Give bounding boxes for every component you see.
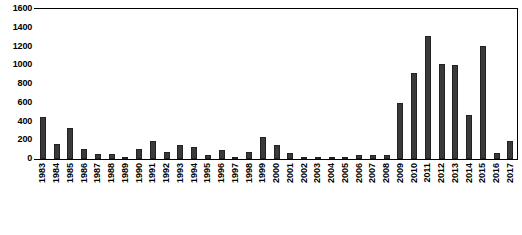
bar-slot — [490, 9, 504, 159]
bar[interactable] — [136, 149, 142, 159]
bar-slot — [105, 9, 119, 159]
x-tick-label: 2001 — [286, 163, 295, 183]
bar[interactable] — [301, 157, 307, 159]
bar[interactable] — [425, 36, 431, 159]
x-tick-label: 1983 — [38, 163, 47, 183]
bar[interactable] — [507, 141, 513, 159]
bar[interactable] — [109, 154, 115, 159]
x-tick-slot: 2010 — [407, 163, 421, 233]
bar[interactable] — [205, 155, 211, 159]
bar-slot — [462, 9, 476, 159]
x-tick-label: 2003 — [313, 163, 322, 183]
x-tick-label: 2007 — [368, 163, 377, 183]
bar[interactable] — [232, 157, 238, 159]
x-tick-slot: 2000 — [270, 163, 284, 233]
x-tick-label: 2008 — [382, 163, 391, 183]
x-tick-slot: 1994 — [187, 163, 201, 233]
x-tick-label: 1991 — [148, 163, 157, 183]
x-tick-label: 1997 — [231, 163, 240, 183]
x-tick-label: 1998 — [245, 163, 254, 183]
y-tick-label: 1400 — [0, 23, 32, 32]
x-tick-label: 2000 — [272, 163, 281, 183]
x-tick-label: 1992 — [162, 163, 171, 183]
x-tick-slot: 1987 — [91, 163, 105, 233]
bar[interactable] — [466, 115, 472, 159]
bar-slot — [77, 9, 91, 159]
bar-slot — [201, 9, 215, 159]
bar[interactable] — [219, 150, 225, 159]
bar[interactable] — [95, 154, 101, 159]
bar-slot — [421, 9, 435, 159]
x-tick-label: 2009 — [396, 163, 405, 183]
bar-slot — [476, 9, 490, 159]
bar-slot — [119, 9, 133, 159]
x-tick-slot: 1997 — [229, 163, 243, 233]
bar[interactable] — [177, 145, 183, 159]
x-tick-slot: 2014 — [462, 163, 476, 233]
x-tick-slot: 1991 — [146, 163, 160, 233]
x-tick-slot: 2007 — [366, 163, 380, 233]
x-tick-slot: 2017 — [504, 163, 518, 233]
bar-slot — [449, 9, 463, 159]
bar[interactable] — [81, 149, 87, 159]
bar[interactable] — [246, 152, 252, 160]
bar-slot — [64, 9, 78, 159]
bar[interactable] — [411, 73, 417, 159]
y-tick-label: 200 — [0, 135, 32, 144]
bar-slot — [215, 9, 229, 159]
bar-slot — [50, 9, 64, 159]
bar[interactable] — [397, 103, 403, 159]
bar[interactable] — [67, 128, 73, 159]
x-tick-slot: 1986 — [77, 163, 91, 233]
bar[interactable] — [260, 137, 266, 159]
bar[interactable] — [494, 153, 500, 159]
bar[interactable] — [452, 65, 458, 159]
bar[interactable] — [315, 157, 321, 159]
bar-slot — [229, 9, 243, 159]
x-tick-label: 1986 — [80, 163, 89, 183]
x-tick-slot: 2008 — [380, 163, 394, 233]
y-tick-label: 1600 — [0, 4, 32, 13]
bar-slot — [311, 9, 325, 159]
bar-slot — [380, 9, 394, 159]
bar[interactable] — [274, 145, 280, 159]
plot-area — [36, 9, 517, 159]
bar[interactable] — [439, 64, 445, 159]
bar[interactable] — [122, 157, 128, 159]
x-tick-label: 1995 — [203, 163, 212, 183]
x-tick-slot: 1993 — [174, 163, 188, 233]
bar-slot — [366, 9, 380, 159]
x-tick-slot: 1992 — [160, 163, 174, 233]
x-tick-label: 1989 — [121, 163, 130, 183]
x-tick-slot: 1989 — [119, 163, 133, 233]
bar[interactable] — [329, 157, 335, 159]
y-axis: 16001400120010008006004002000 — [0, 0, 32, 170]
bar[interactable] — [370, 155, 376, 159]
bar-slot — [339, 9, 353, 159]
x-tick-label: 2017 — [506, 163, 515, 183]
bar-slot — [270, 9, 284, 159]
bar[interactable] — [384, 155, 390, 159]
bar[interactable] — [287, 153, 293, 159]
x-tick-slot: 1999 — [256, 163, 270, 233]
x-tick-label: 2016 — [492, 163, 501, 183]
x-tick-slot: 2002 — [297, 163, 311, 233]
bar-slot — [187, 9, 201, 159]
x-tick-label: 1988 — [107, 163, 116, 183]
bar-slot — [325, 9, 339, 159]
bar-slot — [394, 9, 408, 159]
bar[interactable] — [164, 152, 170, 159]
bar[interactable] — [191, 147, 197, 159]
bar[interactable] — [342, 157, 348, 159]
bar[interactable] — [480, 46, 486, 159]
x-tick-label: 2002 — [300, 163, 309, 183]
y-tick-label: 1000 — [0, 60, 32, 69]
bar[interactable] — [150, 141, 156, 159]
x-tick-label: 2014 — [465, 163, 474, 183]
bar[interactable] — [54, 144, 60, 159]
bar[interactable] — [356, 155, 362, 159]
bar-slot — [146, 9, 160, 159]
bar[interactable] — [40, 117, 46, 159]
x-tick-label: 2013 — [451, 163, 460, 183]
bar-slot — [504, 9, 518, 159]
